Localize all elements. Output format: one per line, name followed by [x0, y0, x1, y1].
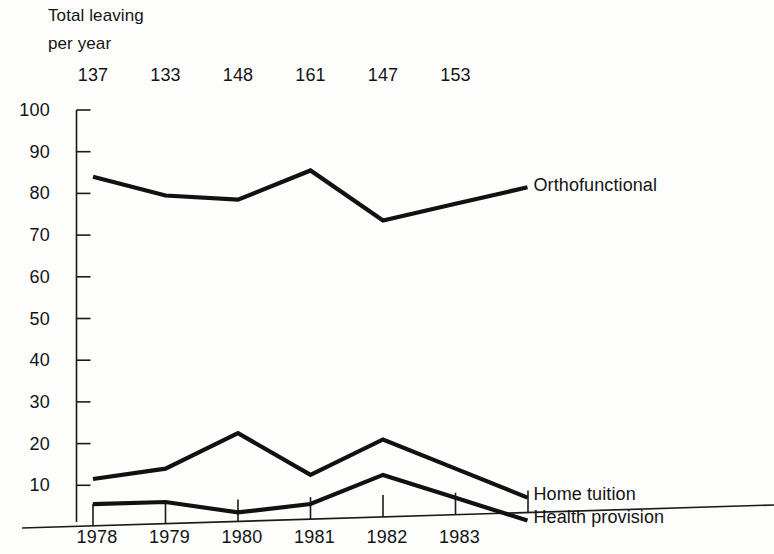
series-label-orthofunctional: Orthofunctional — [534, 175, 658, 195]
data-series — [93, 170, 528, 520]
line-chart-figure: Total leaving per year 13713314816114715… — [0, 0, 774, 554]
plot-area — [0, 0, 774, 554]
series-line-home-tuition — [93, 433, 528, 497]
series-line-orthofunctional — [93, 170, 528, 220]
series-label-health-provision: Health provision — [534, 507, 665, 527]
series-label-home-tuition: Home tuition — [534, 484, 636, 504]
axes — [22, 110, 774, 528]
